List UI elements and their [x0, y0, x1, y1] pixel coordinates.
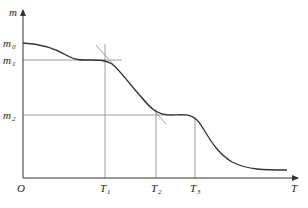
x-axis-label: T [291, 182, 298, 194]
mass-curve [23, 43, 287, 170]
svg-text:0: 0 [12, 43, 16, 51]
x-tick-t1: T 1 [100, 182, 111, 196]
svg-text:1: 1 [107, 188, 111, 196]
svg-text:m: m [3, 109, 11, 121]
svg-text:2: 2 [158, 188, 162, 196]
svg-text:T: T [100, 182, 107, 194]
svg-text:T: T [151, 182, 158, 194]
x-tick-t3: T 3 [190, 182, 201, 196]
svg-text:m: m [3, 37, 11, 49]
y-axis-label: m [9, 6, 17, 18]
y-tick-m2: m 2 [3, 109, 16, 123]
x-tick-t2: T 2 [151, 182, 162, 196]
origin-label: O [17, 182, 25, 194]
svg-text:1: 1 [12, 60, 16, 68]
svg-text:m: m [3, 54, 11, 66]
svg-text:2: 2 [12, 115, 16, 123]
y-tick-m0: m 0 [3, 37, 16, 51]
y-tick-m1: m 1 [3, 54, 16, 68]
svg-text:T: T [190, 182, 197, 194]
tga-diagram: m m 0 m 1 m 2 O T 1 T 2 T 3 T [0, 0, 308, 208]
svg-text:3: 3 [196, 188, 201, 196]
